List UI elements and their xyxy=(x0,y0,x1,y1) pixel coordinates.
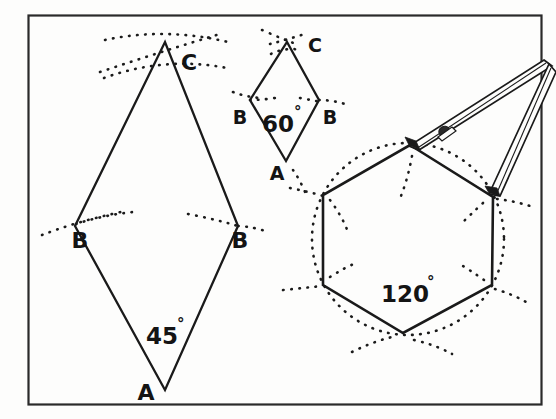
rhombus-45-degree-symbol: ° xyxy=(177,315,185,333)
rhombus-60-degree-symbol: ° xyxy=(294,103,302,121)
rhombus-45-label-b-right: B xyxy=(232,228,249,253)
rhombus-60-label-c: C xyxy=(308,34,322,56)
rhombus-45-label-b-left: B xyxy=(72,228,89,253)
hexagon-degree-symbol: ° xyxy=(427,273,435,291)
rhombus-60-label-a: A xyxy=(270,162,285,184)
rhombus-60-label-b-left: B xyxy=(233,106,247,128)
rhombus-60-angle-value: 60 xyxy=(262,111,294,137)
rhombus-60-label-b-right: B xyxy=(323,106,337,128)
figure-canvas: A B B C 45 ° A B B C 60 ° 120 ° xyxy=(0,0,556,419)
figure-svg: A B B C 45 ° A B B C 60 ° 120 ° xyxy=(0,0,556,419)
hexagon-angle-value: 120 xyxy=(381,281,429,307)
rhombus-45-label-a: A xyxy=(137,380,154,405)
rhombus-45-angle-value: 45 xyxy=(146,323,178,349)
rhombus-45-label-c: C xyxy=(181,50,197,75)
